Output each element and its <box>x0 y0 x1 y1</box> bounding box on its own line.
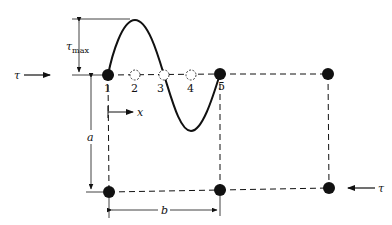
node-3-label: 3 <box>157 82 164 95</box>
x-axis-arrow <box>108 106 133 118</box>
node-5-label: 5 <box>218 80 225 93</box>
node-3 <box>159 70 169 80</box>
dim-a-label: a <box>87 131 94 144</box>
dim-b-label: b <box>161 204 168 217</box>
bottom-edge-right <box>220 188 329 190</box>
node-bottom-middle <box>214 184 226 196</box>
node-top-right <box>322 68 334 80</box>
node-labels: 1 2 3 4 5 <box>104 80 225 95</box>
node-bottom-left <box>103 186 115 198</box>
node-4 <box>186 70 196 80</box>
tau-left-label: τ <box>14 69 21 82</box>
x-axis-label: x <box>137 106 144 119</box>
bottom-edge-left <box>109 190 220 192</box>
node-5 <box>214 68 226 80</box>
shear-stress-diagram: τmax a b x τ τ 1 2 3 4 <box>0 0 392 225</box>
tau-max-label: τmax <box>66 40 89 55</box>
node-1 <box>102 69 114 81</box>
node-4-label: 4 <box>187 82 194 95</box>
node-bottom-right <box>323 182 335 194</box>
node-1-label: 1 <box>104 82 111 95</box>
tau-right-label: τ <box>378 182 385 195</box>
right-edge <box>328 74 329 188</box>
node-2 <box>130 70 140 80</box>
node-2-label: 2 <box>131 82 138 95</box>
